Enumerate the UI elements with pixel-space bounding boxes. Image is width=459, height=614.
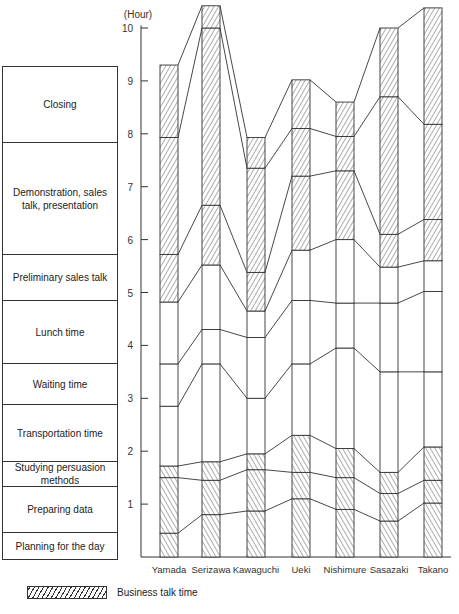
bar-segment [247,398,265,454]
bar-segment [292,80,310,129]
bar-segment [247,311,265,337]
bar-segment [424,503,442,557]
bar-segment [424,124,442,219]
bar-segment [424,480,442,503]
bar-segment [380,303,398,372]
bar-segment [380,234,398,267]
bar-segment [247,470,265,511]
bar-segment [380,372,398,473]
business-talk-key: Business talk time [27,586,198,599]
y-tick-label: 6 [127,235,133,246]
x-category-label: Ueki [291,564,310,575]
y-tick-label: 1 [127,499,133,510]
bar-segment [336,348,354,449]
bar-segment [336,478,354,510]
bar-segment [160,406,178,466]
bar-segment [160,65,178,137]
bar-segment [336,136,354,170]
y-tick-label: 3 [127,393,133,404]
bar-segment [247,272,265,311]
bar-segment [160,254,178,302]
y-tick-label: 5 [127,288,133,299]
bar-segment [292,176,310,250]
bar-segment [424,8,442,124]
y-tick-label: 9 [127,76,133,87]
bar-segment [202,265,220,330]
bar-segment [336,240,354,303]
bar-segment [202,28,220,205]
bar-segment [160,138,178,255]
bar-segment [247,138,265,169]
bar-segment [424,261,442,292]
bar-segment [292,499,310,557]
bar-segment [380,28,398,97]
x-category-label: Serizawa [191,564,231,575]
y-tick-label: 2 [127,446,133,457]
hatch-swatch-icon [27,586,107,599]
bar-segment [292,250,310,300]
y-tick-label: 4 [127,340,133,351]
bar-segment [160,478,178,534]
bar-segment [336,303,354,348]
bars [160,6,442,557]
bar-segment [424,372,442,447]
bar-segment [292,435,310,472]
bar-segment [247,337,265,398]
bar-segment [380,97,398,235]
bar-segment [380,267,398,303]
bar-segment [202,6,220,28]
bar-segment [424,291,442,371]
bar-segment [292,300,310,363]
x-category-label: Kawaguchi [233,564,279,575]
x-category-label: Sasazaki [370,564,409,575]
bar-segment [336,102,354,136]
bar-segment [202,480,220,514]
bar-segment [292,364,310,435]
bar-segment [336,509,354,557]
y-tick-label: 7 [127,182,133,193]
bar-segment [247,168,265,272]
bar-segment [380,521,398,557]
x-axis-labels: YamadaSerizawaKawaguchiUekiNishimureSasa… [152,564,449,575]
bar-segment [160,302,178,364]
bar-segment [380,494,398,522]
bar-segment [160,466,178,478]
stacked-bar-chart: (Hour) 12345678910 YamadaSerizawaKawaguc… [0,0,459,614]
x-category-label: Nishimure [324,564,367,575]
bar-segment [202,515,220,557]
bar-segment [247,454,265,470]
bar-segment [202,330,220,364]
bar-segment [247,511,265,557]
bar-segment [336,171,354,240]
bar-segment [292,472,310,498]
key-label: Business talk time [117,587,198,598]
bar-segment [380,472,398,493]
x-category-label: Yamada [152,564,187,575]
y-axis-unit-label: (Hour) [124,9,152,20]
bar-segment [202,364,220,462]
x-category-label: Takano [418,564,449,575]
bar-segment [424,219,442,260]
y-tick-label: 10 [122,23,134,34]
bar-segment [336,449,354,478]
bar-segment [202,462,220,481]
bar-segment [160,533,178,557]
bar-segment [202,205,220,265]
y-tick-label: 8 [127,129,133,140]
bar-segment [160,364,178,406]
bar-segment [292,129,310,177]
bar-segment [424,447,442,480]
